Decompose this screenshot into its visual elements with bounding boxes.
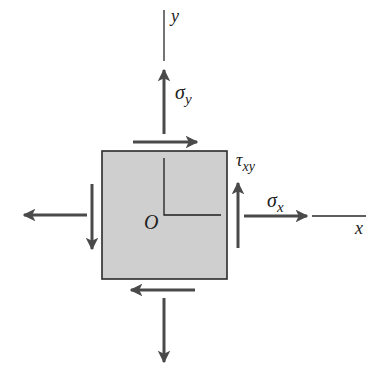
sigma-y-label: σy	[175, 81, 192, 107]
origin-label: O	[144, 211, 158, 233]
sigma-y-subscript: y	[183, 91, 192, 107]
tau-subscript: xy	[241, 159, 255, 174]
sigma-x-label: σx	[267, 189, 284, 215]
x-axis-label: x	[354, 218, 363, 238]
y-axis-label: y	[169, 6, 179, 26]
stress-element-diagram: y x O σy σx τxy	[0, 0, 388, 382]
sigma-x-subscript: x	[276, 199, 284, 215]
tau-xy-label: τxy	[236, 150, 256, 174]
